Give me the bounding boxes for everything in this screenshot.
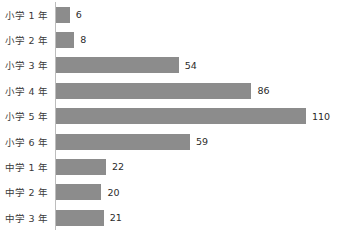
bar-track: 21 [56, 210, 122, 226]
bar-row: 小学 3 年54 [0, 53, 339, 78]
bar-category-label: 小学 2 年 [0, 33, 50, 47]
bar-row: 中学 2 年20 [0, 180, 339, 205]
bar-track: 6 [56, 7, 82, 23]
bar-fill [56, 134, 190, 150]
bar-fill [56, 83, 251, 99]
bar-track: 22 [56, 159, 124, 175]
bar-row: 中学 3 年21 [0, 205, 339, 230]
bar-value-label: 20 [107, 188, 119, 198]
bar-fill [56, 210, 104, 226]
bar-row: 小学 1 年6 [0, 2, 339, 27]
bar-category-label: 小学 6 年 [0, 135, 50, 149]
bar-category-label: 小学 4 年 [0, 84, 50, 98]
bar-category-label: 小学 3 年 [0, 58, 50, 72]
bar-value-label: 54 [185, 61, 197, 71]
bar-row: 小学 2 年8 [0, 27, 339, 52]
bar-fill [56, 108, 306, 124]
bar-fill [56, 159, 106, 175]
bar-row: 小学 6 年59 [0, 129, 339, 154]
bar-track: 20 [56, 184, 120, 200]
bar-value-label: 21 [110, 213, 122, 223]
bar-fill [56, 184, 101, 200]
bar-value-label: 110 [312, 112, 330, 122]
bar-track: 86 [56, 83, 270, 99]
bar-value-label: 8 [80, 35, 86, 45]
bar-value-label: 6 [76, 10, 82, 20]
bar-fill [56, 7, 70, 23]
bar-value-label: 86 [257, 86, 269, 96]
bar-track: 8 [56, 32, 86, 48]
bar-value-label: 59 [196, 137, 208, 147]
bar-category-label: 小学 5 年 [0, 109, 50, 123]
bar-value-label: 22 [112, 162, 124, 172]
bar-category-label: 中学 1 年 [0, 160, 50, 174]
bar-track: 59 [56, 134, 208, 150]
bar-row: 小学 5 年110 [0, 104, 339, 129]
bar-fill [56, 32, 74, 48]
bar-fill [56, 57, 179, 73]
plot-area: 小学 1 年6小学 2 年8小学 3 年54小学 4 年86小学 5 年110小… [0, 0, 339, 232]
bar-track: 54 [56, 57, 197, 73]
bar-chart-figure: 小学 1 年6小学 2 年8小学 3 年54小学 4 年86小学 5 年110小… [0, 0, 339, 246]
bar-track: 110 [56, 108, 330, 124]
bar-category-label: 中学 2 年 [0, 185, 50, 199]
bar-row: 中学 1 年22 [0, 154, 339, 179]
bar-category-label: 中学 3 年 [0, 211, 50, 225]
bar-row: 小学 4 年86 [0, 78, 339, 103]
bar-category-label: 小学 1 年 [0, 8, 50, 22]
